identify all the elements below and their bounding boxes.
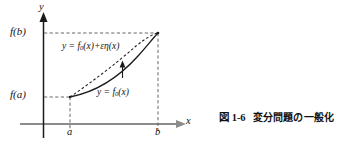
curve-perturbed-label: y = f0(x)+εη(x): [62, 42, 119, 52]
curve-perturbed-suffix: (x): [109, 41, 120, 51]
y-tick-label-fb: f(b): [10, 26, 26, 37]
variation-arrow-head: [120, 61, 126, 68]
y-tick-label-fa: f(a): [10, 89, 26, 100]
y-axis-arrowhead: [40, 12, 48, 22]
y-axis-label: y: [39, 2, 44, 13]
curve-base-suffix: (x): [118, 87, 129, 97]
figure-caption-text: 変分問題の一般化: [253, 112, 335, 123]
endpoint-a-dot: [69, 96, 71, 98]
endpoint-b-dot: [157, 32, 160, 35]
x-tick-label-a: a: [67, 127, 72, 138]
figure-caption-number: 図 1-6: [219, 112, 246, 123]
x-axis-arrowhead: [176, 120, 186, 128]
curve-base-prefix: y = f: [97, 87, 115, 97]
figure-container: f(b) f(a) a b x y y = f0(x)+εη(x) y = f0…: [0, 0, 352, 149]
x-tick-label-b: b: [155, 127, 160, 138]
x-axis-label: x: [186, 116, 191, 127]
x-axis: [20, 120, 186, 128]
curve-perturbed-mid: (x)+: [83, 41, 100, 51]
figure-caption: 図 1-6変分問題の一般化: [219, 112, 334, 125]
curve-base-label: y = f0(x): [97, 88, 129, 98]
curve-perturbed-prefix: y = f: [62, 41, 80, 51]
variational-problem-plot: [0, 0, 352, 149]
y-axis: [40, 12, 48, 138]
